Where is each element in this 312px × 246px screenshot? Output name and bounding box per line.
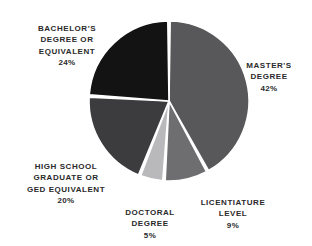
pie-chart-svg	[0, 0, 312, 246]
pie-chart: BACHELOR'S DEGREE OR EQUIVALENT 24% MAST…	[0, 0, 312, 246]
